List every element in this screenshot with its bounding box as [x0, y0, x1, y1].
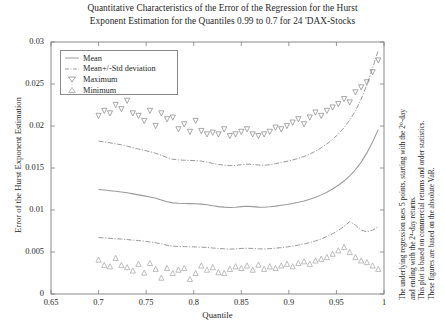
minimum-marker: [176, 267, 181, 272]
maximum-marker: [222, 127, 227, 132]
minimum-marker: [313, 258, 318, 263]
maximum-marker: [376, 58, 381, 63]
minimum-marker: [290, 264, 295, 269]
minimum-marker: [273, 265, 278, 270]
minimum-marker: [233, 264, 238, 269]
minimum-marker: [307, 261, 312, 266]
maximum-marker: [199, 128, 204, 133]
annotation-line: These figures are based on the absolute …: [427, 168, 436, 300]
minimum-marker: [153, 266, 158, 271]
maximum-marker: [290, 120, 295, 125]
maximum-marker: [130, 111, 135, 116]
maximum-marker: [227, 133, 232, 138]
minimum-marker: [256, 262, 261, 267]
maximum-marker: [107, 111, 112, 116]
maximum-marker: [159, 111, 164, 116]
minimum-marker: [193, 270, 198, 275]
minimum-marker: [130, 268, 135, 273]
minimum-marker: [239, 265, 244, 270]
minimum-marker: [107, 264, 112, 269]
maximum-marker: [301, 122, 306, 127]
minimum-marker: [136, 261, 141, 266]
minimum-marker: [341, 244, 346, 249]
minimum-marker: [210, 265, 215, 270]
maximum-marker: [125, 98, 130, 103]
minimum-marker: [113, 255, 118, 260]
minimum-marker: [376, 266, 381, 271]
legend-item-mean: Mean: [63, 53, 177, 64]
minimum-marker: [347, 249, 352, 254]
minimum-marker: [102, 262, 107, 267]
maximum-marker: [307, 115, 312, 120]
maximum-marker: [187, 129, 192, 134]
minimum-marker: [330, 251, 335, 256]
maximum-marker: [341, 97, 346, 102]
maximum-marker: [102, 108, 107, 113]
maximum-marker: [250, 132, 255, 137]
maximum-marker: [193, 118, 198, 123]
maximum-marker: [279, 127, 284, 132]
minimum-marker: [267, 264, 272, 269]
legend-item-std: Mean+/-Std deviation: [63, 64, 177, 75]
minimum-marker: [319, 256, 324, 261]
minimum-marker: [182, 265, 187, 270]
annotation-line: This plot is based on commercial returns…: [417, 121, 426, 300]
minimum-marker: [222, 270, 227, 275]
triangle-up-marker-icon: [63, 85, 83, 95]
minimum-marker: [370, 263, 375, 268]
maximum-marker: [153, 123, 158, 128]
maximum-marker: [330, 105, 335, 110]
maximum-marker: [353, 90, 358, 95]
maximum-marker: [113, 102, 118, 107]
maximum-marker: [319, 113, 324, 118]
maximum-marker: [336, 102, 341, 107]
minimum-marker: [359, 258, 364, 263]
minimum-marker: [227, 266, 232, 271]
maximum-marker: [136, 113, 141, 118]
maximum-marker: [210, 130, 215, 135]
maximum-marker: [142, 118, 147, 123]
maximum-marker: [296, 117, 301, 122]
annotation-line: The underlying regression uses 5 points,…: [398, 109, 407, 300]
minimum-marker: [164, 265, 169, 270]
legend-label-maximum: Maximum: [83, 75, 118, 84]
legend-label-std: Mean+/-Std deviation: [83, 64, 156, 73]
maximum-marker: [204, 132, 209, 137]
maximum-marker: [233, 132, 238, 137]
minimum-marker: [187, 276, 192, 281]
maximum-marker: [244, 127, 249, 132]
maximum-marker: [359, 85, 364, 90]
legend-label-mean: Mean: [83, 54, 102, 63]
maximum-marker: [182, 122, 187, 127]
maximum-marker: [239, 129, 244, 134]
maximum-marker: [324, 108, 329, 113]
dashdot-line-icon: [63, 64, 83, 74]
maximum-marker: [284, 123, 289, 128]
maximum-marker: [164, 117, 169, 122]
maximum-marker: [262, 132, 267, 137]
chart-legend: Mean Mean+/-Std deviation Maximum Minimu…: [60, 50, 178, 95]
minimum-marker: [147, 260, 152, 265]
minimum-marker: [364, 259, 369, 264]
maximum-marker: [216, 132, 221, 137]
minimum-marker: [159, 275, 164, 280]
annotation-line: and ending with the 2⁴-day returns.: [408, 196, 417, 300]
minimum-marker: [296, 260, 301, 265]
minimum-marker: [199, 263, 204, 268]
solid-line-icon: [63, 53, 83, 63]
maximum-marker: [267, 129, 272, 134]
maximum-marker: [176, 127, 181, 132]
maximum-marker: [313, 110, 318, 115]
minimum-marker: [301, 259, 306, 264]
maximum-marker: [347, 100, 352, 105]
minimum-marker: [250, 267, 255, 272]
series-mean-line: [99, 129, 379, 207]
maximum-marker: [119, 107, 124, 112]
maximum-marker: [273, 125, 278, 130]
minimum-marker: [96, 257, 101, 262]
figure-root: Quantitative Characteristics of the Erro…: [0, 0, 445, 331]
legend-item-maximum: Maximum: [63, 74, 177, 85]
minimum-marker: [279, 263, 284, 268]
maximum-marker: [256, 133, 261, 138]
minimum-marker: [119, 262, 124, 267]
